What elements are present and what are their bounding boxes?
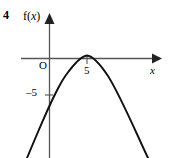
y-axis-arrowhead <box>45 13 55 24</box>
function-label-prefix: f( <box>23 9 31 23</box>
question-number: 4 <box>3 9 9 21</box>
function-label: f(x) <box>23 10 40 22</box>
origin-label: O <box>39 60 47 71</box>
function-label-suffix: ) <box>36 9 40 23</box>
x-axis-label: x <box>150 65 155 76</box>
graph-svg <box>0 0 169 158</box>
x-axis-arrowhead <box>152 54 162 64</box>
function-graph-figure: 4 f(x) O 5 –5 x <box>0 0 169 158</box>
y-tick-label-neg5: –5 <box>26 87 37 98</box>
x-tick-label-5: 5 <box>84 65 90 76</box>
